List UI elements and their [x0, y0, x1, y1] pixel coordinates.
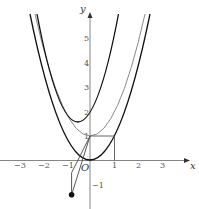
x-tick-label: 2 — [136, 161, 141, 170]
x-tick-label: −3 — [14, 161, 26, 170]
x-tick-label: 3 — [160, 161, 165, 170]
y-axis-label: y — [79, 3, 86, 14]
y-tick-label: 3 — [84, 83, 89, 92]
curve-shifted — [37, 14, 119, 122]
y-tick-label: 4 — [84, 59, 89, 68]
x-axis-label: x — [190, 160, 196, 171]
x-tick-label: 1 — [112, 161, 117, 170]
x-tick-label: −2 — [38, 161, 50, 170]
y-tick-label: −1 — [92, 181, 104, 190]
origin-label: O — [81, 162, 89, 173]
point-P — [69, 192, 75, 198]
graph-canvas: x y O −3 −2 −1 1 2 3 1 2 3 4 5 −1 — [0, 0, 199, 209]
x-tick-label: −1 — [62, 161, 74, 170]
y-axis-arrow-icon — [88, 12, 93, 18]
y-tick-label: 5 — [84, 34, 89, 43]
